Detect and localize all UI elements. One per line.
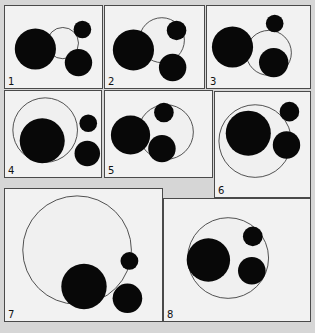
- panel-8-large-filled-circle: [187, 238, 230, 281]
- panel-4-medium-filled-circle: [75, 141, 100, 166]
- panel-5-large-filled-circle: [111, 115, 150, 154]
- panel-7-canvas: [5, 189, 162, 321]
- panel-2: 2: [104, 5, 205, 89]
- panel-6-small-filled-circle: [280, 102, 300, 122]
- panel-7-medium-filled-circle: [113, 284, 143, 314]
- panel-label-7: 7: [8, 309, 14, 321]
- panel-8-medium-filled-circle: [238, 257, 266, 285]
- panel-2-large-filled-circle: [113, 29, 154, 70]
- panel-1-canvas: [5, 6, 102, 88]
- panel-label-2: 2: [108, 76, 114, 88]
- panel-label-4: 4: [8, 165, 14, 177]
- panel-4-small-filled-circle: [79, 114, 97, 132]
- panel-6: 6: [214, 91, 311, 198]
- panel-6-canvas: [215, 92, 310, 197]
- panel-3-canvas: [207, 6, 310, 88]
- panel-5-medium-filled-circle: [148, 135, 175, 162]
- panel-1-small-filled-circle: [74, 21, 92, 39]
- panel-7-small-filled-circle: [121, 252, 139, 270]
- panel-8-canvas: [164, 199, 310, 321]
- panel-6-large-filled-circle: [226, 111, 271, 156]
- panel-3-large-filled-circle: [212, 27, 253, 68]
- panel-label-8: 8: [167, 309, 173, 321]
- panel-2-canvas: [105, 6, 204, 88]
- panel-label-3: 3: [210, 76, 216, 88]
- panel-6-medium-filled-circle: [273, 131, 300, 158]
- figure-root: 12345678: [0, 0, 315, 333]
- panel-2-small-filled-circle: [167, 21, 187, 41]
- panel-label-5: 5: [108, 165, 114, 177]
- panel-3-small-filled-circle: [266, 15, 284, 33]
- panel-5-small-filled-circle: [154, 103, 174, 123]
- panel-4: 4: [4, 90, 102, 178]
- panel-8: 8: [163, 198, 311, 322]
- panel-7: 7: [4, 188, 163, 322]
- panel-1-large-filled-circle: [15, 28, 56, 69]
- panel-1: 1: [4, 5, 103, 89]
- panel-2-medium-filled-circle: [159, 54, 186, 81]
- panel-label-6: 6: [218, 185, 224, 197]
- panel-3: 3: [206, 5, 311, 89]
- panel-5-canvas: [105, 91, 212, 177]
- panel-3-medium-filled-circle: [259, 48, 288, 77]
- panel-5: 5: [104, 90, 213, 178]
- panel-4-canvas: [5, 91, 101, 177]
- panel-1-medium-filled-circle: [65, 49, 92, 76]
- panel-label-1: 1: [8, 76, 14, 88]
- panel-7-large-filled-circle: [61, 264, 106, 309]
- panel-4-large-filled-circle: [20, 118, 65, 163]
- panel-8-small-filled-circle: [243, 227, 263, 247]
